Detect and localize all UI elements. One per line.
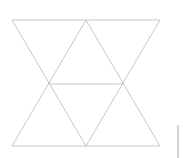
triangular-lattice-figure xyxy=(0,0,183,158)
lattice-edge-group xyxy=(12,20,160,146)
figure-canvas xyxy=(0,0,183,158)
